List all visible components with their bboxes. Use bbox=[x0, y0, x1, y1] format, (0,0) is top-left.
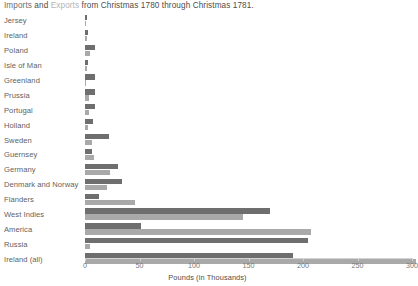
bar-row: Prussia bbox=[0, 87, 415, 102]
bar-exports[interactable] bbox=[85, 21, 86, 26]
bar-group bbox=[85, 207, 415, 222]
title-conjunction: and bbox=[32, 1, 51, 10]
plot-area: JerseyIrelandPolandIsle of ManGreenlandP… bbox=[0, 13, 415, 258]
bar-imports[interactable] bbox=[85, 45, 95, 50]
category-label: Ireland bbox=[4, 31, 28, 40]
bar-row: America bbox=[0, 221, 415, 236]
bar-imports[interactable] bbox=[85, 74, 95, 79]
bar-exports[interactable] bbox=[85, 95, 89, 100]
chart-title: Imports and Exports from Christmas 1780 … bbox=[4, 1, 254, 11]
bar-imports[interactable] bbox=[85, 164, 118, 169]
category-label: America bbox=[4, 224, 32, 233]
category-label: West Indies bbox=[4, 210, 44, 219]
bar-exports[interactable] bbox=[85, 51, 90, 56]
bar-imports[interactable] bbox=[85, 223, 141, 228]
bar-row: Denmark and Norway bbox=[0, 177, 415, 192]
x-tick-label: 50 bbox=[136, 261, 144, 270]
title-imports-legend: Imports bbox=[4, 1, 32, 10]
bar-row: Flanders bbox=[0, 192, 415, 207]
bar-group bbox=[85, 117, 415, 132]
bar-row: Portugal bbox=[0, 102, 415, 117]
bar-exports[interactable] bbox=[85, 125, 88, 130]
bar-row: Guernsey bbox=[0, 147, 415, 162]
bar-imports[interactable] bbox=[85, 30, 88, 35]
bar-group bbox=[85, 236, 415, 251]
category-label: Sweden bbox=[4, 135, 32, 144]
bar-imports[interactable] bbox=[85, 208, 270, 213]
x-tick-label: 250 bbox=[352, 261, 364, 270]
bar-group bbox=[85, 13, 415, 28]
bar-exports[interactable] bbox=[85, 80, 86, 85]
bar-imports[interactable] bbox=[85, 179, 122, 184]
category-label: Isle of Man bbox=[4, 61, 42, 70]
x-axis-title: Pounds (in Thousands) bbox=[0, 273, 415, 282]
bar-group bbox=[85, 177, 415, 192]
bar-row: West Indies bbox=[0, 207, 415, 222]
bar-imports[interactable] bbox=[85, 60, 88, 65]
bar-row: Holland bbox=[0, 117, 415, 132]
bar-row: Sweden bbox=[0, 132, 415, 147]
bar-row: Germany bbox=[0, 162, 415, 177]
bar-exports[interactable] bbox=[85, 200, 135, 205]
bar-exports[interactable] bbox=[85, 36, 87, 41]
category-label: Prussia bbox=[4, 90, 30, 99]
category-label: Russia bbox=[4, 239, 28, 248]
bar-imports[interactable] bbox=[85, 104, 95, 109]
bar-row: Jersey bbox=[0, 13, 415, 28]
bar-exports[interactable] bbox=[85, 244, 90, 249]
bar-row: Russia bbox=[0, 236, 415, 251]
category-label: Portugal bbox=[4, 105, 33, 114]
bar-group bbox=[85, 58, 415, 73]
bar-group bbox=[85, 28, 415, 43]
bar-rows: JerseyIrelandPolandIsle of ManGreenlandP… bbox=[0, 13, 415, 266]
bar-row: Ireland bbox=[0, 28, 415, 43]
x-tick-label: 300 bbox=[406, 261, 418, 270]
x-tick-label: 100 bbox=[188, 261, 200, 270]
bar-group bbox=[85, 43, 415, 58]
bar-group bbox=[85, 221, 415, 236]
title-tail: from Christmas 1780 through Christmas 17… bbox=[79, 1, 254, 10]
category-label: Denmark and Norway bbox=[4, 180, 78, 189]
category-label: Flanders bbox=[4, 195, 34, 204]
bar-group bbox=[85, 132, 415, 147]
bar-group bbox=[85, 192, 415, 207]
title-exports-legend: Exports bbox=[51, 1, 79, 10]
bar-group bbox=[85, 102, 415, 117]
bar-group bbox=[85, 73, 415, 88]
bar-imports[interactable] bbox=[85, 119, 93, 124]
x-tick-label: 150 bbox=[243, 261, 255, 270]
bar-imports[interactable] bbox=[85, 238, 308, 243]
x-axis: 050100150200250300 Pounds (in Thousands) bbox=[0, 258, 415, 286]
category-label: Jersey bbox=[4, 16, 27, 25]
bar-imports[interactable] bbox=[85, 15, 87, 20]
bar-row: Greenland bbox=[0, 73, 415, 88]
bar-imports[interactable] bbox=[85, 89, 95, 94]
category-label: Holland bbox=[4, 120, 30, 129]
bar-exports[interactable] bbox=[85, 140, 92, 145]
bar-row: Poland bbox=[0, 43, 415, 58]
bar-exports[interactable] bbox=[85, 229, 311, 234]
bar-exports[interactable] bbox=[85, 66, 87, 71]
bar-exports[interactable] bbox=[85, 214, 243, 219]
bar-group bbox=[85, 147, 415, 162]
bar-imports[interactable] bbox=[85, 134, 109, 139]
bar-exports[interactable] bbox=[85, 185, 107, 190]
bar-exports[interactable] bbox=[85, 170, 110, 175]
category-label: Poland bbox=[4, 46, 28, 55]
bar-imports[interactable] bbox=[85, 149, 92, 154]
bar-group bbox=[85, 87, 415, 102]
x-tick-label: 0 bbox=[83, 261, 87, 270]
category-label: Greenland bbox=[4, 76, 40, 85]
category-label: Germany bbox=[4, 165, 36, 174]
x-tick-label: 200 bbox=[297, 261, 309, 270]
bar-exports[interactable] bbox=[85, 110, 89, 115]
bar-exports[interactable] bbox=[85, 155, 94, 160]
bar-group bbox=[85, 162, 415, 177]
bar-imports[interactable] bbox=[85, 194, 99, 199]
category-label: Guernsey bbox=[4, 150, 37, 159]
bar-row: Isle of Man bbox=[0, 58, 415, 73]
